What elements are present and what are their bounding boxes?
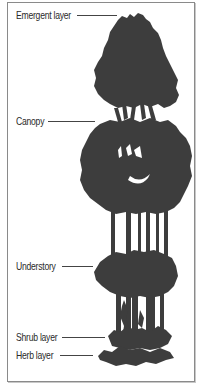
label-herb-layer: Herb layer	[16, 349, 53, 361]
leader-line-canopy	[48, 121, 95, 122]
leader-line-emergent	[77, 15, 117, 16]
label-understory: Understory	[16, 260, 56, 272]
label-canopy: Canopy	[16, 115, 44, 127]
leader-line-understory	[62, 266, 93, 267]
leader-line-shrub	[62, 337, 105, 338]
leader-line-herb	[60, 355, 93, 356]
label-emergent-layer: Emergent layer	[16, 9, 71, 21]
label-shrub-layer: Shrub layer	[16, 331, 57, 343]
